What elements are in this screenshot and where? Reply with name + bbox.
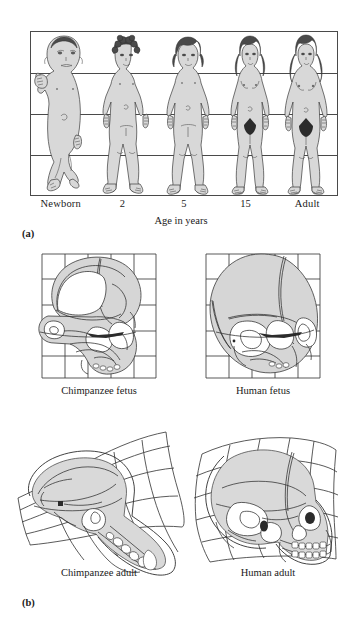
- figure-age-15: [219, 32, 281, 195]
- age-label-5: 5: [153, 198, 215, 209]
- age-label-adult: Adult: [276, 198, 338, 209]
- panel-tag-a: (a): [22, 228, 34, 239]
- caption-human-adult: Human adult: [188, 567, 348, 578]
- skull-chimpanzee-fetus: [34, 248, 164, 383]
- skull-human-fetus: [198, 248, 328, 383]
- caption-human-fetus: Human fetus: [198, 385, 328, 396]
- age-label-newborn: Newborn: [30, 198, 92, 209]
- caption-chimpanzee-fetus: Chimpanzee fetus: [34, 385, 164, 396]
- panel-b-skull-transformations: Chimpanzee fetus: [0, 240, 362, 618]
- skull-human-adult: [188, 426, 348, 576]
- panel-tag-b: (b): [22, 597, 35, 608]
- growth-grid-frame: [30, 31, 338, 196]
- caption-chimpanzee-adult: Chimpanzee adult: [14, 567, 184, 578]
- skull-chimpanzee-adult: [14, 426, 184, 576]
- panel-a-body-proportions: Newborn 2 5 15 Adult Age in years (a): [0, 0, 362, 240]
- age-label-2: 2: [92, 198, 154, 209]
- figure-newborn: [33, 32, 95, 195]
- age-label-15: 15: [215, 198, 277, 209]
- age-axis-labels: Newborn 2 5 15 Adult: [30, 198, 338, 209]
- axis-title-age: Age in years: [0, 215, 362, 226]
- figure-age-2: [95, 32, 157, 195]
- figure-adult: [275, 32, 337, 195]
- figure-age-5: [157, 32, 219, 195]
